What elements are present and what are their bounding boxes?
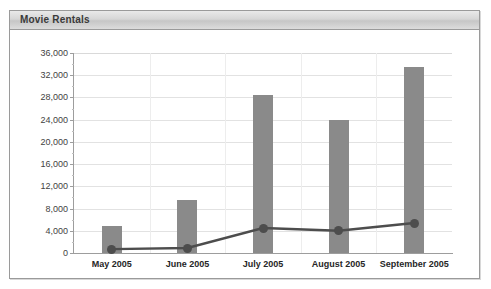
movie-rentals-panel: Movie Rentals 04,0008,00012,00016,00020,… (9, 10, 480, 279)
data-point-marker (410, 219, 419, 228)
movie-rentals-chart: 04,0008,00012,00016,00020,00024,00028,00… (10, 31, 479, 279)
x-axis-tick-label: June 2005 (166, 259, 210, 269)
y-axis-tick-label: 0 (63, 248, 68, 258)
data-point-marker (107, 245, 116, 254)
y-axis-labels: 04,0008,00012,00016,00020,00024,00028,00… (10, 53, 68, 253)
y-axis-tick-label: 20,000 (40, 137, 68, 147)
panel-header: Movie Rentals (10, 11, 479, 30)
y-axis-tick-label: 16,000 (40, 159, 68, 169)
x-axis-tick-label: August 2005 (312, 259, 366, 269)
y-axis-tick-label: 36,000 (40, 48, 68, 58)
x-axis-tick-label: September 2005 (380, 259, 449, 269)
page-title: Movie Rentals (20, 14, 90, 25)
line-series (74, 53, 452, 253)
x-axis-line (73, 253, 453, 254)
y-axis-tick-label: 4,000 (45, 226, 68, 236)
y-axis-tick-label: 12,000 (40, 181, 68, 191)
data-point-marker (183, 244, 192, 253)
data-point-marker (259, 224, 268, 233)
y-axis-tick (70, 253, 74, 254)
y-axis-tick-label: 32,000 (40, 70, 68, 80)
y-axis-tick-label: 8,000 (45, 204, 68, 214)
y-axis-tick-label: 28,000 (40, 92, 68, 102)
x-axis-tick-label: July 2005 (243, 259, 284, 269)
panel-body: 04,0008,00012,00016,00020,00024,00028,00… (10, 31, 479, 278)
y-axis-tick-label: 24,000 (40, 115, 68, 125)
x-axis-tick-label: May 2005 (92, 259, 132, 269)
